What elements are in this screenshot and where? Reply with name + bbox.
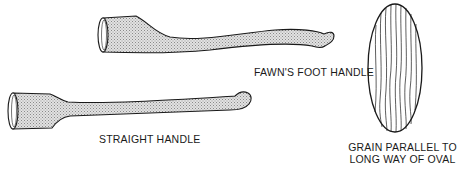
straight-handle-label: STRAIGHT HANDLE bbox=[99, 133, 200, 145]
grain-direction-label: GRAIN PARALLEL TO LONG WAY OF OVAL bbox=[340, 141, 465, 165]
grain-label-line-2: LONG WAY OF OVAL bbox=[340, 153, 465, 165]
fawns-foot-handle-label: FAWN'S FOOT HANDLE bbox=[254, 66, 374, 78]
fawns-foot-handle-drawing bbox=[98, 16, 334, 53]
straight-handle-drawing bbox=[8, 92, 251, 129]
grain-label-line-1: GRAIN PARALLEL TO bbox=[340, 141, 465, 153]
grain-oval-drawing bbox=[368, 4, 422, 132]
